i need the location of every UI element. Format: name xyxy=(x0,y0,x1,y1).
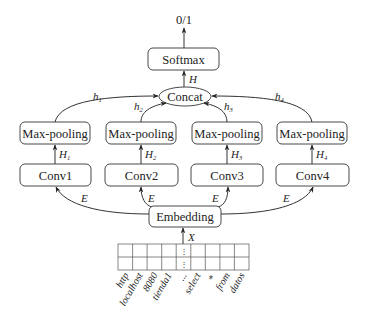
maxpool-node-2: Max-pooling xyxy=(106,122,176,144)
textcnn-architecture-diagram: 0/1 Softmax H Concat h1 h2 h3 h4 Max-poo… xyxy=(0,0,368,333)
h2-label: h2 xyxy=(134,100,144,113)
concat-output-label: H xyxy=(188,73,198,85)
svg-text:Max-pooling: Max-pooling xyxy=(279,127,345,141)
svg-text:Max-pooling: Max-pooling xyxy=(108,127,174,141)
svg-text:Conv1: Conv1 xyxy=(39,169,72,183)
E1-label: E xyxy=(80,192,88,204)
softmax-node: Softmax xyxy=(148,48,219,70)
concat-label: Concat xyxy=(167,90,203,104)
output-label: 0/1 xyxy=(176,13,192,27)
svg-text:Conv2: Conv2 xyxy=(125,169,158,183)
h4-label: h4 xyxy=(275,90,285,103)
h1-label: h1 xyxy=(93,90,102,103)
svg-text:Max-pooling: Max-pooling xyxy=(194,127,260,141)
conv-node-3: Conv3 xyxy=(191,164,263,186)
E4-arrow xyxy=(221,187,313,214)
h2-arrow xyxy=(141,103,166,122)
H1-label: H1 xyxy=(58,148,70,161)
conv-node-1: Conv1 xyxy=(20,164,91,186)
maxpool-node-4: Max-pooling xyxy=(277,122,347,144)
conv-node-2: Conv2 xyxy=(105,164,178,186)
H3-label: H3 xyxy=(230,148,243,161)
svg-text:Max-pooling: Max-pooling xyxy=(22,127,88,141)
maxpool-node-3: Max-pooling xyxy=(192,122,262,144)
svg-text:Conv4: Conv4 xyxy=(296,169,330,183)
concat-node: Concat xyxy=(159,87,211,106)
token-datos: datos xyxy=(226,270,246,294)
softmax-label: Softmax xyxy=(162,53,205,67)
E2-label: E xyxy=(147,192,155,204)
H4-label: H4 xyxy=(315,148,328,161)
embedding-label: Embedding xyxy=(156,210,214,224)
E3-label: E xyxy=(211,192,219,204)
X-label: X xyxy=(187,231,196,243)
token-labels: http localhost 8080 tienda1 ... select *… xyxy=(113,270,246,307)
h3-label: h3 xyxy=(224,100,234,113)
svg-text:Conv3: Conv3 xyxy=(210,169,243,183)
matrix-ellipsis-row2: ⋮ xyxy=(180,260,188,269)
E3-arrow xyxy=(218,187,228,207)
matrix-ellipsis-row1: ⋮ xyxy=(180,247,188,256)
embedding-node: Embedding xyxy=(149,206,221,227)
E4-label: E xyxy=(282,192,290,204)
conv-node-4: Conv4 xyxy=(276,164,349,186)
input-matrix: ⋮ ⋮ xyxy=(118,244,249,270)
H2-label: H2 xyxy=(144,148,157,161)
E1-arrow xyxy=(56,187,149,214)
maxpool-node-1: Max-pooling xyxy=(20,122,90,144)
